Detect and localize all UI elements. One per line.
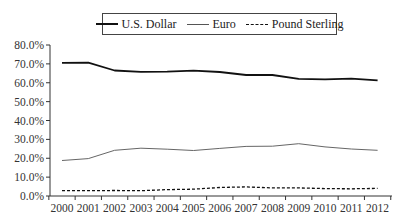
x-tick-label: 2001	[77, 202, 100, 214]
legend-item-euro: Euro	[187, 17, 236, 32]
legend-label: U.S. Dollar	[122, 17, 177, 32]
dashed-line-icon	[246, 24, 268, 25]
series-line-euro	[62, 144, 378, 161]
x-tick-label: 2011	[340, 202, 363, 214]
x-tick-label: 2005	[182, 202, 205, 214]
y-tick-label: 80.0%	[14, 39, 44, 51]
x-tick-label: 2003	[129, 202, 152, 214]
series-line-u-s-dollar	[62, 63, 378, 81]
y-tick-label: 60.0%	[14, 77, 44, 89]
y-tick-label: 20.0%	[14, 152, 44, 164]
x-tick-label: 2009	[287, 202, 310, 214]
x-tick-label: 2002	[103, 202, 126, 214]
legend-label: Euro	[213, 17, 236, 32]
x-tick-label: 2006	[208, 202, 231, 214]
y-tick-label: 30.0%	[14, 133, 44, 145]
y-tick-label: 10.0%	[14, 171, 44, 183]
x-tick-label: 2004	[156, 202, 179, 214]
legend-label: Pound Sterling	[272, 17, 344, 32]
x-tick-label: 2000	[51, 202, 74, 214]
legend: U.S. Dollar Euro Pound Sterling	[102, 13, 337, 35]
series-lines	[62, 63, 378, 191]
y-tick-label: 0.0%	[20, 190, 44, 202]
series-line-pound-sterling	[62, 187, 378, 191]
solid-thin-line-icon	[187, 24, 209, 25]
y-axis: 0.0%10.0%20.0%30.0%40.0%50.0%60.0%70.0%8…	[14, 39, 50, 202]
x-tick-label: 2007	[235, 202, 258, 214]
legend-item-gbp: Pound Sterling	[246, 17, 344, 32]
y-tick-label: 70.0%	[14, 58, 44, 70]
y-tick-label: 40.0%	[14, 115, 44, 127]
x-tick-label: 2012	[366, 202, 389, 214]
solid-thick-line-icon	[96, 23, 118, 25]
y-tick-label: 50.0%	[14, 96, 44, 108]
x-tick-label: 2008	[261, 202, 284, 214]
x-axis: 2000200120022003200420052006200720082009…	[49, 196, 392, 214]
legend-item-usd: U.S. Dollar	[96, 17, 177, 32]
x-tick-label: 2010	[314, 202, 337, 214]
